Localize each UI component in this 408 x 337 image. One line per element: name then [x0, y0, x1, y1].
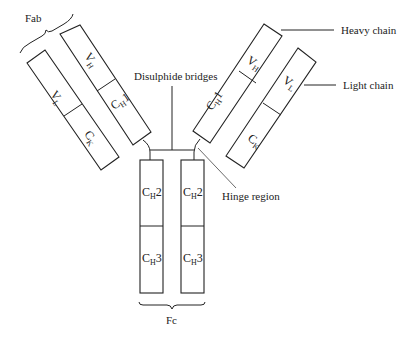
hinge-and-bridges — [143, 86, 200, 160]
fab-label: Fab — [25, 12, 42, 24]
hinge-region-label: Hinge region — [222, 190, 280, 202]
fc-right-chain: CH2 CH3 — [181, 160, 204, 293]
fc-left-chain: CH2 CH3 — [140, 160, 163, 293]
fc-label: Fc — [166, 314, 177, 326]
light-chain-label: Light chain — [343, 79, 394, 91]
disulphide-label: Disulphide bridges — [134, 70, 217, 82]
fc-brace — [139, 302, 205, 309]
heavy-chain-label: Heavy chain — [341, 24, 397, 36]
antibody-diagram: Fab VL CK VH CH1 VH CH1 VL CK Disulphide… — [0, 0, 408, 337]
